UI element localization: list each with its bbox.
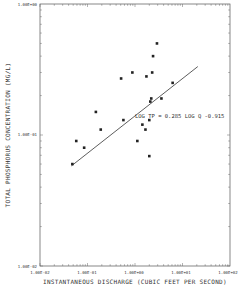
data-point [141,123,144,126]
scatter-chart: 1.00E+00 1.00E-01 1.00E-02 1.00E-02 1.00… [0,0,241,287]
data-point [149,100,152,103]
data-point [120,77,123,80]
data-point [99,128,102,131]
y-axis-title: TOTAL PHOSPHORUS CONCENTRATION (MG/L) [4,63,11,208]
data-point [148,119,151,122]
axis-ticks [40,4,230,266]
data-point [95,111,98,114]
data-point [151,71,154,74]
x-tick-4: 1.00E+02 [218,270,238,275]
data-point [171,82,174,85]
data-point [152,55,155,58]
y-tick-top: 1.00E+00 [18,2,38,7]
data-point [71,163,74,166]
data-point [136,140,139,143]
regression-equation: LOG TP = 0.285 LOG Q -0.915 [135,113,224,119]
y-tick-mid: 1.00E-01 [18,132,38,137]
data-point [145,75,148,78]
data-point [75,140,78,143]
plot-frame [40,4,230,266]
x-tick-1: 1.00E-01 [77,270,97,275]
y-tick-bottom: 1.00E-02 [18,264,38,269]
x-tick-2: 1.00E+00 [124,270,144,275]
data-point [131,71,134,74]
x-tick-0: 1.00E-02 [30,270,50,275]
data-point [122,119,125,122]
data-points [71,42,174,165]
data-point [156,42,159,45]
data-point [83,146,86,149]
data-point [160,97,163,100]
x-axis-title: INSTANTANEOUS DISCHARGE (CUBIC FEET PER … [43,278,227,285]
data-point [148,155,151,158]
data-point [150,97,153,100]
data-point [144,128,147,131]
x-tick-3: 1.00E+01 [171,270,191,275]
